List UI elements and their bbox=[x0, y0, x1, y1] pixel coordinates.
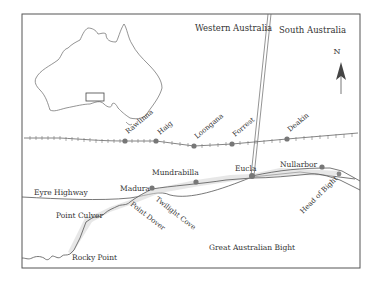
inset-study-area-box bbox=[86, 93, 104, 101]
station-label-rawlinna: Rawlinna bbox=[124, 108, 155, 136]
svg-text:N: N bbox=[334, 47, 341, 56]
station-label-haig: Haig bbox=[156, 119, 175, 136]
town-dot-madura bbox=[149, 185, 154, 190]
station-label-forrest: Forrest bbox=[231, 116, 256, 139]
station-dot-loongana bbox=[191, 143, 196, 148]
town-label-eucla: Eucla bbox=[235, 164, 257, 173]
north-arrow-icon: N bbox=[334, 47, 347, 94]
label-point-culver: Point Culver bbox=[56, 211, 104, 220]
station-label-loongana: Loongana bbox=[193, 112, 225, 141]
state-border bbox=[251, 14, 271, 176]
station-dot-haig bbox=[153, 138, 158, 143]
town-label-nullarbor: Nullarbor bbox=[280, 160, 318, 169]
station-label-deakin: Deakin bbox=[286, 111, 311, 133]
region-label-south-australia: South Australia bbox=[279, 25, 346, 35]
town-dot-eucla bbox=[249, 173, 255, 179]
label-great-australian-bight: Great Australian Bight bbox=[209, 243, 295, 252]
label-rocky-point: Rocky Point bbox=[72, 253, 117, 262]
region-label-western-australia: Western Australia bbox=[195, 23, 272, 33]
map-canvas: Western Australia South Australia N Rawl… bbox=[0, 0, 379, 281]
station-dot-rawlinna bbox=[122, 138, 127, 143]
town-label-head-of-bight: Head of Bight bbox=[299, 175, 340, 216]
railway-line bbox=[24, 133, 358, 148]
town-label-madura: Madura bbox=[120, 184, 150, 193]
highway-label: Eyre Highway bbox=[34, 188, 89, 197]
town-dot-mundrabilla bbox=[193, 179, 198, 184]
station-dot-deakin bbox=[284, 136, 289, 141]
town-dot-nullarbor bbox=[319, 164, 324, 169]
town-label-mundrabilla: Mundrabilla bbox=[152, 168, 199, 177]
inset-australia-map bbox=[35, 24, 162, 125]
town-dot-head-of-bight bbox=[337, 172, 342, 177]
station-dot-forrest bbox=[229, 141, 234, 146]
